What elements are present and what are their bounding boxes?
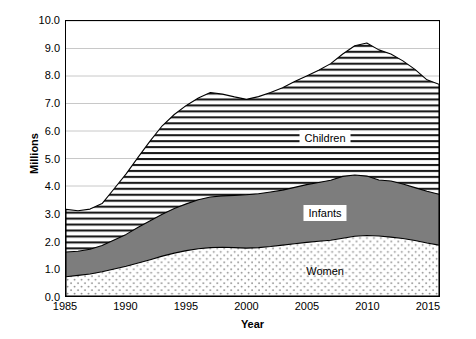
series-label-infants: Infants [304, 205, 347, 221]
y-tick-label: 9.0 [45, 42, 60, 53]
y-tick-label: 2.0 [45, 236, 60, 247]
x-tick-label: 2000 [234, 301, 258, 312]
y-tick-label: 1.0 [45, 264, 60, 275]
y-tick-label: 6.0 [45, 125, 60, 136]
y-tick-label: 3.0 [45, 208, 60, 219]
x-tick-label: 2005 [295, 301, 319, 312]
x-tick-label: 2010 [355, 301, 379, 312]
series-label-women: Women [301, 263, 349, 279]
x-tick-label: 2015 [416, 301, 440, 312]
x-tick-label: 1990 [113, 301, 137, 312]
y-tick-label: 8.0 [45, 70, 60, 81]
series-areas [66, 43, 439, 296]
x-tick-label: 1985 [53, 301, 77, 312]
plot-svg [66, 21, 439, 296]
x-axis-title: Year [65, 319, 440, 330]
y-tick-label: 4.0 [45, 181, 60, 192]
stacked-area-chart: Millions 0.01.02.03.04.05.06.07.08.09.01… [0, 0, 476, 339]
y-axis-tick-labels: 0.01.02.03.04.05.06.07.08.09.010.0 [0, 20, 60, 297]
x-axis-tick-labels: 1985199019952000200520102015 [65, 301, 440, 317]
plot-area [65, 20, 440, 297]
y-tick-label: 7.0 [45, 98, 60, 109]
x-tick-label: 1995 [174, 301, 198, 312]
series-label-children: Children [300, 130, 351, 146]
y-tick-label: 10.0 [39, 15, 60, 26]
y-tick-label: 5.0 [45, 153, 60, 164]
